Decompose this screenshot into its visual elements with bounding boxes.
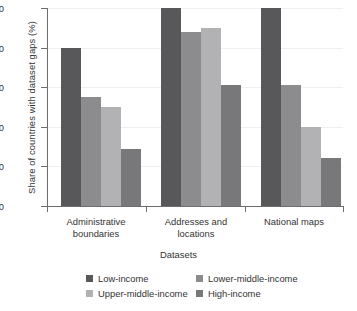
bar-chart: Share of countries with dataset gaps (%)…	[0, 0, 357, 311]
x-category-label-2-line1: National maps	[234, 216, 354, 228]
legend-label-high-income: High-income	[208, 288, 261, 299]
legend-item-high-income[interactable]: High-income	[196, 288, 261, 299]
legend-item-lower-middle-income[interactable]: Lower-middle-income	[196, 273, 298, 284]
legend-row-2: Upper-middle-income High-income	[86, 288, 326, 299]
bar-group-national-maps	[261, 8, 341, 206]
legend: Low-income Lower-middle-income Upper-mid…	[86, 273, 326, 303]
y-tick-label-100: 100	[0, 3, 4, 14]
plot-area	[47, 8, 343, 206]
x-category-label-2: National maps	[234, 216, 354, 228]
bar-administrative-boundaries-lower-middle-income	[81, 97, 101, 206]
x-category-label-1-line2: locations	[136, 228, 256, 240]
bar-administrative-boundaries-low-income	[61, 48, 81, 206]
legend-label-lower-middle-income: Lower-middle-income	[208, 273, 298, 284]
y-tick-label-40: 40	[0, 121, 4, 132]
x-axis-title: Datasets	[0, 249, 357, 260]
bar-addresses-and-locations-lower-middle-income	[181, 32, 201, 206]
bar-administrative-boundaries-upper-middle-income	[101, 107, 121, 206]
bar-national-maps-low-income	[261, 8, 281, 206]
legend-label-low-income: Low-income	[98, 273, 149, 284]
legend-item-upper-middle-income[interactable]: Upper-middle-income	[86, 288, 196, 299]
bar-addresses-and-locations-high-income	[221, 85, 241, 206]
y-tick-label-0: 0	[0, 201, 4, 212]
legend-swatch-upper-middle-income-icon	[86, 290, 93, 297]
y-axis-line	[47, 8, 48, 206]
x-tick-mark-1	[146, 206, 147, 212]
x-axis-line	[47, 206, 343, 207]
bar-administrative-boundaries-high-income	[121, 149, 141, 206]
legend-swatch-low-income-icon	[86, 275, 93, 282]
y-axis-title: Share of countries with dataset gaps (%)	[26, 3, 37, 213]
legend-label-upper-middle-income: Upper-middle-income	[98, 288, 188, 299]
bar-addresses-and-locations-upper-middle-income	[201, 28, 221, 206]
y-tick-label-80: 80	[0, 42, 4, 53]
bar-national-maps-high-income	[321, 158, 341, 206]
y-tick-label-60: 60	[0, 82, 4, 93]
legend-item-low-income[interactable]: Low-income	[86, 273, 196, 284]
bar-addresses-and-locations-low-income	[161, 8, 181, 206]
legend-row-1: Low-income Lower-middle-income	[86, 273, 326, 284]
legend-swatch-lower-middle-income-icon	[196, 275, 203, 282]
bar-group-administrative-boundaries	[61, 8, 141, 206]
legend-swatch-high-income-icon	[196, 290, 203, 297]
y-tick-label-20: 20	[0, 161, 4, 172]
bar-national-maps-lower-middle-income	[281, 85, 301, 206]
x-tick-mark-left	[47, 206, 48, 212]
x-tick-mark-right	[343, 206, 344, 212]
bar-group-addresses-and-locations	[161, 8, 241, 206]
bar-national-maps-upper-middle-income	[301, 127, 321, 206]
x-tick-mark-2	[245, 206, 246, 212]
